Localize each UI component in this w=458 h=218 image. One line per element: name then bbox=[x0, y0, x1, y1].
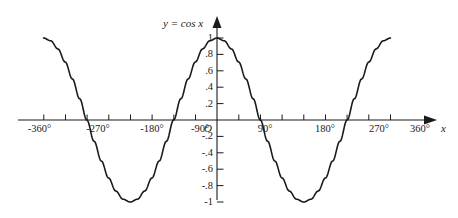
y-tick-label: .6 bbox=[188, 66, 213, 77]
x-tick-label: 270° bbox=[369, 124, 389, 135]
cosine-graph-figure: y = cos x O x -360° -270° -180° -90° 90°… bbox=[0, 0, 458, 218]
y-tick-label: -.2 bbox=[188, 131, 213, 142]
chart-title: y = cos x bbox=[163, 17, 203, 29]
y-tick-label: 1 bbox=[188, 33, 213, 44]
x-tick-label: 360° bbox=[410, 124, 430, 135]
y-tick-label: -.8 bbox=[188, 180, 213, 191]
y-tick-label: -.6 bbox=[188, 164, 213, 175]
y-tick-label: .4 bbox=[188, 82, 213, 93]
x-axis-name: x bbox=[441, 122, 446, 134]
x-tick-label: -180° bbox=[140, 124, 163, 135]
y-axis-arrow-icon bbox=[213, 16, 222, 28]
y-tick-label: .2 bbox=[188, 98, 213, 109]
y-tick-label: .8 bbox=[188, 49, 213, 60]
x-tick-label: -360° bbox=[28, 124, 51, 135]
plot-area bbox=[0, 0, 458, 218]
x-tick-label: 90° bbox=[258, 124, 273, 135]
x-tick-label: 180° bbox=[315, 124, 335, 135]
y-tick-label: -1 bbox=[188, 197, 213, 208]
y-tick-label: -.4 bbox=[188, 148, 213, 159]
x-tick-label: -270° bbox=[86, 124, 109, 135]
